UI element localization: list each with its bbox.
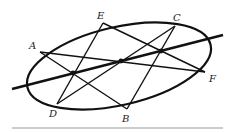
segment-DE <box>57 23 103 104</box>
intersection-AB-DE <box>71 71 76 76</box>
label-D: D <box>48 108 57 119</box>
hexagon-sides <box>40 23 205 109</box>
intersection-BC-EF <box>159 49 164 54</box>
segment-EF <box>103 23 205 72</box>
label-E: E <box>96 10 105 21</box>
segment-CD <box>57 26 175 104</box>
intersection-AF-CD <box>119 59 124 64</box>
pascal-line-stroke <box>12 35 223 89</box>
pascal-line <box>12 35 223 89</box>
label-B: B <box>121 113 129 124</box>
label-A: A <box>28 40 36 51</box>
label-F: F <box>208 73 217 84</box>
label-C: C <box>173 12 181 23</box>
pascal-diagram: AECFBD <box>0 0 235 133</box>
